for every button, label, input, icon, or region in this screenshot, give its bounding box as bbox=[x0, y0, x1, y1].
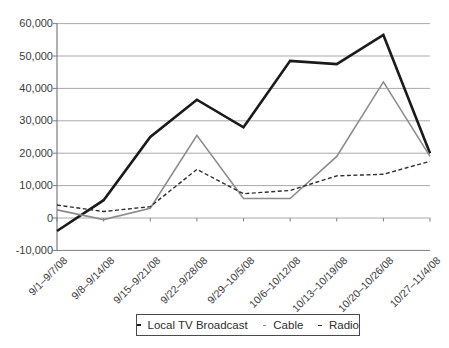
y-axis-label: -10,000 bbox=[7, 244, 53, 257]
legend-label-radio: Radio bbox=[329, 319, 359, 331]
legend-line-sample-cable bbox=[263, 325, 267, 326]
series-line-local-tv-broadcast bbox=[57, 35, 430, 231]
legend-label-cable: Cable bbox=[273, 319, 303, 331]
series-line-cable bbox=[57, 82, 430, 220]
y-axis-label: 30,000 bbox=[7, 114, 53, 127]
y-axis-label: 50,000 bbox=[7, 50, 53, 63]
y-axis-label: 20,000 bbox=[7, 147, 53, 160]
legend-label-local-tv: Local TV Broadcast bbox=[148, 319, 248, 331]
y-axis-label: 10,000 bbox=[7, 179, 53, 192]
line-chart-figure: -10,000010,00020,00030,00040,00050,00060… bbox=[0, 0, 449, 348]
y-axis-label: 0 bbox=[7, 212, 53, 225]
legend-line-sample-local-tv bbox=[137, 324, 141, 326]
legend: Local TV Broadcast Cable Radio bbox=[136, 314, 360, 336]
legend-line-sample-radio bbox=[318, 325, 322, 326]
y-axis-label: 40,000 bbox=[7, 82, 53, 95]
y-axis-label: 60,000 bbox=[7, 17, 53, 30]
